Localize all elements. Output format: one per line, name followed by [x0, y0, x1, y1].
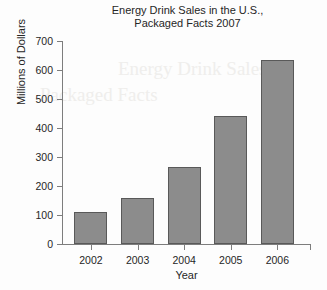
x-axis-tick-label: 2002: [68, 254, 114, 266]
chart-title: Energy Drink Sales in the U.S., Packaged…: [60, 4, 315, 30]
bar-2002: [74, 212, 107, 244]
y-axis-tick-label: 100: [13, 210, 53, 220]
bar-2006: [261, 60, 294, 244]
bar-2004: [168, 167, 201, 244]
y-axis-tick-label: 500: [13, 94, 53, 104]
chart-figure: Energy Drink Sales Packaged Facts Energy…: [0, 0, 327, 290]
bar-2005: [214, 116, 247, 244]
x-axis-tick-label: 2003: [115, 254, 161, 266]
x-axis-tick: [184, 245, 185, 250]
x-axis-line: [62, 244, 311, 245]
x-axis-tick: [277, 245, 278, 250]
bar-2003: [121, 198, 154, 244]
y-axis-tick-label: 400: [13, 123, 53, 133]
y-axis-tick-label: 600: [13, 65, 53, 75]
x-axis-label: Year: [63, 269, 310, 281]
y-axis-tick-label: 0: [13, 239, 53, 249]
x-axis-tick: [231, 245, 232, 250]
y-axis-tick-label: 700: [13, 36, 53, 46]
y-axis-tick: [57, 244, 63, 245]
y-axis-tick-label: 300: [13, 152, 53, 162]
x-axis-tick-label: 2005: [208, 254, 254, 266]
x-axis-end-tick: [310, 245, 311, 250]
y-axis-label: Millions of Dollars: [15, 0, 27, 127]
plot-area: [63, 41, 310, 244]
chart-title-line-2: Packaged Facts 2007: [60, 17, 315, 30]
x-axis-tick-label: 2006: [254, 254, 300, 266]
x-axis-tick: [138, 245, 139, 250]
chart-title-line-1: Energy Drink Sales in the U.S.,: [60, 4, 315, 17]
x-axis-tick: [91, 245, 92, 250]
y-axis-tick-label: 200: [13, 181, 53, 191]
x-axis-tick-label: 2004: [161, 254, 207, 266]
